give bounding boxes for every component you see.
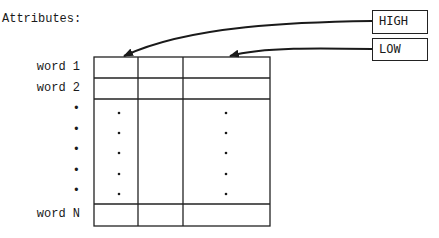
memory-grid bbox=[0, 0, 439, 238]
grid-outline bbox=[94, 57, 270, 226]
high-arrow bbox=[124, 21, 372, 56]
ellipsis-dots bbox=[118, 112, 228, 196]
low-arrow bbox=[230, 48, 372, 56]
